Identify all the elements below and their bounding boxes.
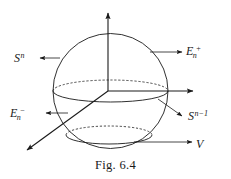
figure-caption: Fig. 6.4 (0, 158, 231, 173)
label-sphere-base: S (14, 51, 20, 65)
label-cap: V (196, 138, 203, 150)
label-sphere: Sn (14, 52, 25, 64)
label-upper-hemisphere-sup: + (196, 44, 201, 53)
cap-back-arc (66, 126, 152, 135)
diagonal-axis (27, 91, 108, 150)
figure-6-4: Sn En+ En− Sn−1 V Fig. 6.4 (0, 0, 231, 179)
label-lower-hemisphere: En− (10, 107, 25, 122)
label-sphere-sup: n (21, 51, 25, 60)
equator-front-arc (53, 91, 168, 102)
label-lower-hemisphere-sup: − (20, 106, 25, 115)
sn-1-leader-line (158, 99, 182, 116)
label-equator-sphere: Sn−1 (188, 110, 208, 122)
label-upper-hemisphere: En+ (186, 45, 201, 60)
sphere-diagram-canvas (0, 0, 231, 179)
label-cap-base: V (196, 137, 203, 151)
label-equator-sphere-sup: n−1 (195, 109, 208, 118)
equator-back-arc (53, 80, 168, 91)
label-equator-sphere-base: S (188, 109, 194, 123)
